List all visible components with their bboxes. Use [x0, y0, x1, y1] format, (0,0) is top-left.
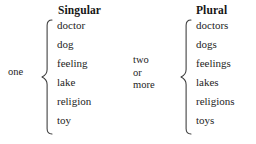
plural-quantifier-label: two or more: [133, 54, 155, 92]
plural-quantifier-line-3: more: [133, 79, 155, 92]
list-item: lake: [57, 76, 75, 88]
list-item: religions: [196, 95, 235, 107]
list-item: toys: [196, 114, 214, 126]
list-item: toy: [57, 114, 71, 126]
list-item: lakes: [196, 76, 219, 88]
list-item: dogs: [196, 38, 217, 50]
list-item: feeling: [57, 57, 88, 69]
plural-brace-icon: [180, 19, 192, 135]
list-item: feelings: [196, 57, 231, 69]
plural-quantifier-line-1: two: [133, 54, 155, 67]
singular-quantifier-label: one: [8, 66, 23, 78]
plural-quantifier-line-2: or: [133, 67, 155, 80]
plural-heading: Plural: [196, 4, 227, 16]
singular-brace-icon: [41, 19, 53, 135]
singular-heading: Singular: [58, 4, 101, 16]
list-item: dog: [57, 38, 74, 50]
list-item: doctor: [57, 19, 85, 31]
list-item: religion: [57, 95, 91, 107]
list-item: doctors: [196, 19, 228, 31]
singular-plural-diagram: Singular one doctor dog feeling lake rel…: [0, 0, 256, 144]
